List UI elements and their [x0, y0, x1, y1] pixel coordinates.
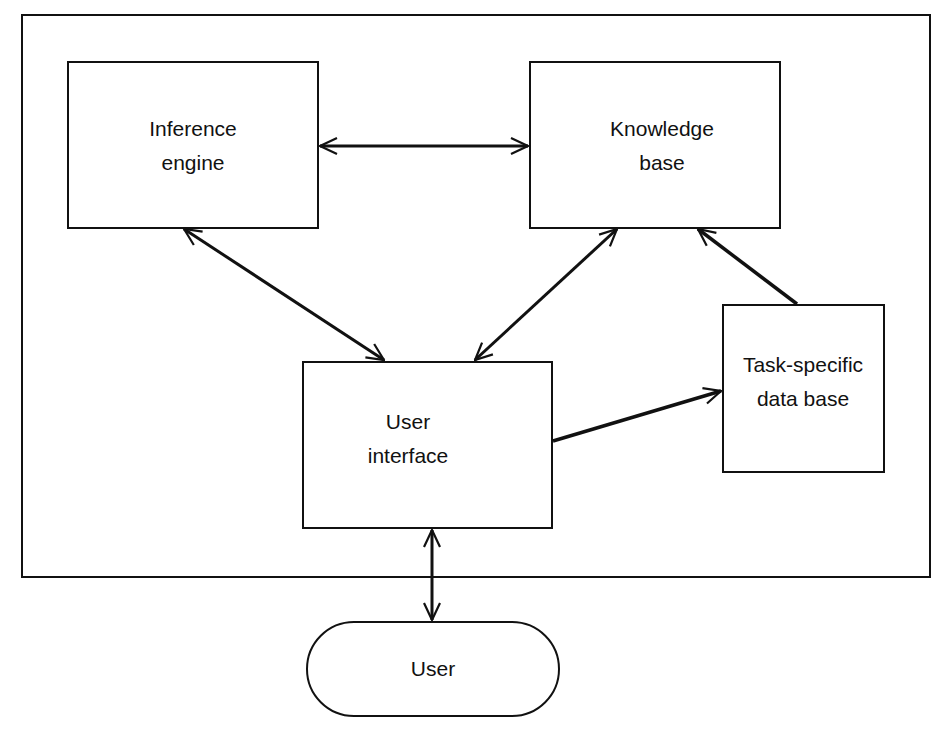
inference-engine-label-line1: Inference: [149, 117, 237, 140]
edge-knowledge-ui: [475, 229, 617, 360]
user-interface-node[interactable]: User interface: [303, 362, 552, 528]
edge-taskdb-knowledge: [698, 229, 797, 304]
task-db-label-line2: data base: [757, 387, 849, 410]
user-label: User: [411, 657, 455, 680]
user-node[interactable]: User: [307, 622, 559, 716]
knowledge-base-node[interactable]: Knowledge base: [530, 62, 780, 228]
user-interface-label-line2: interface: [368, 444, 449, 467]
inference-engine-label-line2: engine: [161, 151, 224, 174]
knowledge-base-label-line1: Knowledge: [610, 117, 714, 140]
knowledge-base-label-line2: base: [639, 151, 685, 174]
task-specific-database-node[interactable]: Task-specific data base: [723, 305, 884, 472]
expert-system-diagram: Inference engine Knowledge base User int…: [0, 0, 949, 734]
edge-ui-taskdb: [553, 391, 721, 441]
task-db-label-line1: Task-specific: [743, 353, 863, 376]
edge-inference-ui: [184, 229, 384, 360]
user-interface-label-line1: User: [386, 410, 430, 433]
inference-engine-node[interactable]: Inference engine: [68, 62, 318, 228]
